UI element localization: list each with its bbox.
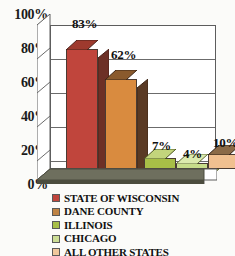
bar-state-of-wisconsin (66, 49, 98, 169)
bar-chart: 100% 80% 60% 40% 20% 0% (0, 0, 235, 256)
legend-item-state-of-wisconsin: STATE OF WISCONSIN (52, 192, 232, 204)
legend-swatch-icon (52, 248, 60, 256)
legend-label: ILLINOIS (64, 220, 113, 231)
legend-label: CHICAGO (64, 233, 116, 244)
legend-label: STATE OF WISCONSIN (64, 193, 179, 204)
data-label-dane-county: 62% (111, 47, 136, 63)
legend-item-all-other-states: ALL OTHER STATES (52, 246, 232, 256)
data-label-illinois: 7% (152, 138, 171, 154)
legend-swatch-icon (52, 208, 60, 216)
legend-item-illinois: ILLINOIS (52, 219, 232, 231)
legend-label: DANE COUNTY (64, 206, 143, 217)
bar-front (105, 79, 137, 169)
legend-swatch-icon (52, 194, 60, 202)
bar-dane-county (105, 79, 137, 169)
data-label-all-other-states: 10% (213, 135, 235, 151)
bar-front (66, 49, 98, 169)
axis-depth-wall (37, 14, 51, 180)
legend-item-dane-county: DANE COUNTY (52, 206, 232, 218)
legend-item-chicago: CHICAGO (52, 233, 232, 245)
legend-swatch-icon (52, 221, 60, 229)
data-label-chicago: 4% (183, 146, 202, 162)
data-label-state-of-wisconsin: 83% (72, 16, 97, 32)
legend-label: ALL OTHER STATES (64, 247, 169, 256)
bar-top (66, 40, 98, 49)
bar-top (105, 70, 137, 79)
chart-legend: STATE OF WISCONSIN DANE COUNTY ILLINOIS … (52, 192, 232, 256)
legend-swatch-icon (52, 235, 60, 243)
plot-area: 83% 62% 7% 4% 10% (50, 14, 216, 180)
